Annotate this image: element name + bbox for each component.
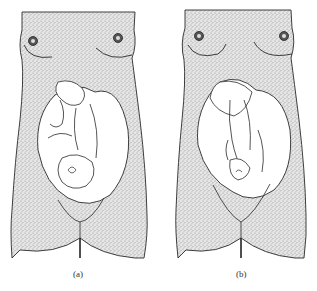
nipple-right-inner	[282, 34, 286, 38]
torso-illustration-b	[158, 0, 317, 291]
caption-b: (b)	[236, 269, 247, 279]
caption-a: (a)	[73, 269, 83, 279]
fetus-2-head	[58, 155, 94, 188]
torso-illustration-a	[0, 0, 158, 291]
panel-b: (b)	[158, 0, 317, 291]
nipple-left-inner	[197, 34, 201, 38]
nipple-left-inner	[31, 39, 35, 43]
nipple-right-inner	[116, 36, 120, 40]
panel-a: (a)	[0, 0, 158, 291]
